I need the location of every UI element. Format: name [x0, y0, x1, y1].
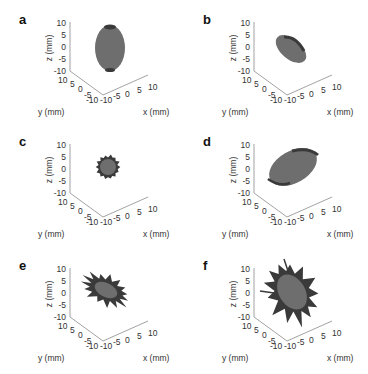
y-tick-labels: 10 5 0 -5 -10 [58, 321, 99, 351]
svg-text:0: 0 [309, 335, 314, 345]
z-tick-labels: 10 5 0 -5 -10 [54, 140, 67, 198]
subplot-d: 10 5 0 -5 -10 z (mm) 10 5 0 -5 -10 -10 -… [184, 125, 368, 247]
surface-object [95, 25, 125, 73]
x-axis-label: x (mm) [143, 229, 170, 239]
svg-text:0: 0 [125, 335, 130, 345]
svg-text:-5: -5 [297, 91, 305, 101]
svg-text:0: 0 [78, 330, 83, 340]
panel-label: e [19, 258, 26, 273]
svg-text:0: 0 [245, 164, 250, 174]
subplot-b: 10 5 0 -5 -10 z (mm) 10 5 0 -5 -10 -10 -… [184, 3, 368, 125]
svg-text:10: 10 [242, 75, 252, 85]
x-axis-label: x (mm) [143, 353, 170, 363]
y-axis-label: y (mm) [38, 107, 65, 117]
z-tick-labels: 10 5 0 -5 -10 [238, 264, 251, 322]
svg-text:-5: -5 [113, 337, 121, 347]
svg-text:0: 0 [262, 84, 267, 94]
svg-text:10: 10 [332, 204, 342, 214]
svg-text:-10: -10 [100, 95, 113, 105]
svg-text:10: 10 [57, 18, 67, 28]
svg-text:0: 0 [262, 330, 267, 340]
z-tick-labels: 10 5 0 -5 -10 [54, 264, 67, 322]
svg-text:-5: -5 [58, 300, 66, 310]
svg-text:5: 5 [245, 152, 250, 162]
x-tick-labels: -10 -5 0 5 10 [284, 204, 342, 227]
z-axis-label: z (mm) [228, 281, 238, 308]
svg-text:10: 10 [241, 140, 251, 150]
svg-text:5: 5 [254, 325, 259, 335]
svg-text:5: 5 [61, 152, 66, 162]
panel-label: f [203, 258, 207, 273]
surface-object [271, 30, 311, 68]
svg-text:5: 5 [137, 85, 142, 95]
svg-text:0: 0 [78, 206, 83, 216]
axes-3d: 10 5 0 -5 -10 z (mm) 10 5 0 -5 -10 -10 -… [184, 3, 368, 125]
svg-text:0: 0 [125, 89, 130, 99]
svg-text:5: 5 [137, 331, 142, 341]
z-axis-label: z (mm) [228, 157, 238, 184]
y-axis-label: y (mm) [222, 353, 249, 363]
y-tick-labels: 10 5 0 -5 -10 [242, 75, 283, 105]
surface-object [96, 154, 121, 179]
svg-text:10: 10 [148, 328, 158, 338]
z-tick-labels: 10 5 0 -5 -10 [238, 18, 251, 76]
svg-text:10: 10 [58, 75, 68, 85]
axes-3d: 10 5 0 -5 -10 z (mm) 10 5 0 -5 -10 -10 -… [0, 3, 184, 125]
svg-text:5: 5 [137, 207, 142, 217]
svg-text:10: 10 [57, 140, 67, 150]
svg-text:5: 5 [61, 30, 66, 40]
svg-text:5: 5 [321, 85, 326, 95]
svg-text:-10: -10 [100, 217, 113, 227]
svg-text:-10: -10 [100, 341, 113, 351]
surface-object [81, 272, 128, 309]
svg-text:0: 0 [245, 288, 250, 298]
subplot-e: 10 5 0 -5 -10 z (mm) 10 5 0 -5 -10 -10 -… [0, 249, 184, 371]
svg-text:5: 5 [70, 79, 75, 89]
svg-text:-5: -5 [58, 54, 66, 64]
svg-text:10: 10 [148, 204, 158, 214]
svg-text:10: 10 [241, 18, 251, 28]
svg-text:-5: -5 [113, 91, 121, 101]
subplot-f: 10 5 0 -5 -10 z (mm) 10 5 0 -5 -10 -10 -… [184, 249, 368, 371]
panel-label: b [203, 12, 211, 27]
svg-text:0: 0 [262, 206, 267, 216]
svg-text:10: 10 [332, 82, 342, 92]
svg-text:5: 5 [245, 30, 250, 40]
svg-text:10: 10 [57, 264, 67, 274]
svg-text:0: 0 [61, 42, 66, 52]
panel-label: d [203, 134, 211, 149]
svg-text:10: 10 [148, 82, 158, 92]
axes-3d: 10 5 0 -5 -10 z (mm) 10 5 0 -5 -10 -10 -… [184, 249, 368, 371]
x-tick-labels: -10 -5 0 5 10 [284, 328, 342, 351]
svg-text:5: 5 [70, 325, 75, 335]
svg-text:-10: -10 [270, 95, 283, 105]
axes-3d: 10 5 0 -5 -10 z (mm) 10 5 0 -5 -10 -10 -… [184, 125, 368, 247]
y-tick-labels: 10 5 0 -5 -10 [58, 197, 99, 227]
svg-text:0: 0 [61, 288, 66, 298]
x-tick-labels: -10 -5 0 5 10 [284, 82, 342, 105]
svg-text:10: 10 [242, 197, 252, 207]
svg-text:-10: -10 [86, 217, 99, 227]
z-axis-label: z (mm) [228, 35, 238, 62]
svg-text:10: 10 [242, 321, 252, 331]
z-axis-label: z (mm) [44, 35, 54, 62]
z-tick-labels: 10 5 0 -5 -10 [238, 140, 251, 198]
x-tick-labels: -10 -5 0 5 10 [100, 204, 158, 227]
surface-object [260, 259, 318, 328]
surface-object [262, 140, 323, 194]
y-axis-label: y (mm) [222, 229, 249, 239]
x-axis-label: x (mm) [327, 229, 354, 239]
svg-text:0: 0 [245, 42, 250, 52]
svg-text:5: 5 [245, 276, 250, 286]
svg-text:-10: -10 [86, 95, 99, 105]
svg-text:-5: -5 [242, 300, 250, 310]
y-tick-labels: 10 5 0 -5 -10 [242, 321, 283, 351]
y-axis-label: y (mm) [38, 353, 65, 363]
panel-label: a [19, 12, 26, 27]
svg-text:-10: -10 [284, 341, 297, 351]
subplot-c: 10 5 0 -5 -10 z (mm) 10 5 0 -5 -10 -10 -… [0, 125, 184, 247]
svg-text:-10: -10 [284, 217, 297, 227]
panel-label: c [19, 134, 26, 149]
svg-text:0: 0 [309, 211, 314, 221]
y-tick-labels: 10 5 0 -5 -10 [58, 75, 99, 105]
